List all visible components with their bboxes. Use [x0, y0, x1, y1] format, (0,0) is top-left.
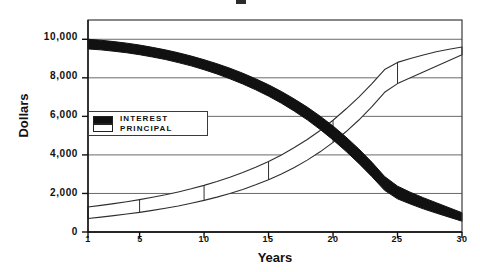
legend-swatch-principal	[93, 124, 113, 132]
plot-area	[0, 0, 480, 272]
legend-labels: Interest Principal	[120, 114, 172, 134]
legend-label-interest: Interest	[120, 114, 172, 124]
chart-container: Dollars Years 10,000 8,000 6,000 4,000 2…	[0, 0, 480, 272]
legend-swatch-interest	[93, 116, 113, 124]
legend-label-principal: Principal	[120, 124, 172, 134]
legend-swatches	[93, 114, 113, 133]
chart-legend: Interest Principal	[88, 111, 208, 136]
